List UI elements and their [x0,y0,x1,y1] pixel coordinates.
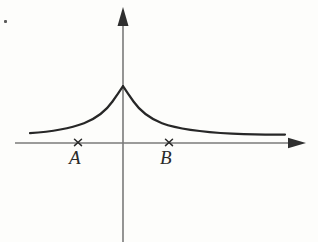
figure-canvas: A B [0,0,318,242]
x-axis-arrowhead [288,138,306,148]
decay-curve-left-branch [30,86,123,133]
decay-curve-right-branch [123,86,285,134]
scan-artifact-speck [4,20,7,23]
y-axis-arrowhead [118,7,129,26]
plot-svg [0,0,318,242]
point-b-label: B [160,148,172,167]
point-a-label: A [69,148,81,167]
